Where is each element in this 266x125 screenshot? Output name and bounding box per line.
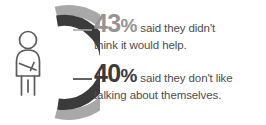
person-standing-icon [17,32,40,96]
callout-1-description: said they didn't [137,22,215,34]
donut-chart-graphic [0,0,100,125]
callout-list: 43% said they didn't think it would help… [94,0,266,125]
callout-item-1: 43% said they didn't think it would help… [94,11,266,52]
callout-item-2: 40% said they don't like talking about t… [94,61,266,102]
callout-1-percent-sign: % [121,15,138,36]
callout-2-primary-line: 40% said they don't like [94,61,266,87]
statistics-infographic: 43% said they didn't think it would help… [0,0,266,125]
person-head-icon [20,32,37,49]
callout-1-primary-line: 43% said they didn't [94,11,266,37]
callout-2-percent-sign: % [121,65,138,86]
callout-1-description-line2: think it would help. [94,38,266,52]
callout-2-description-line2: talking about themselves. [94,88,266,102]
callout-2-description: said they don't like [137,72,232,84]
callout-2-value: 40 [94,59,121,87]
callout-1-value: 43 [94,9,121,37]
